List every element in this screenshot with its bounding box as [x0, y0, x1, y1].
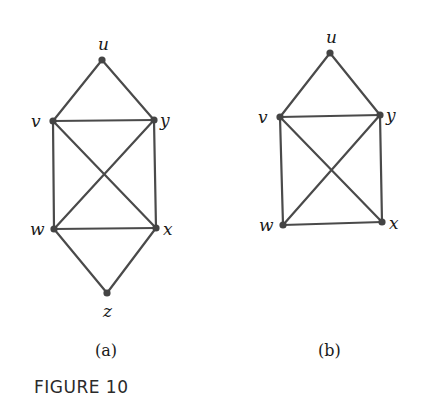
vertex-y [150, 116, 157, 123]
vertex-label-v: v [31, 111, 41, 131]
vertex-label-z: z [102, 301, 113, 321]
graph-b-label: (b) [318, 341, 341, 360]
vertex-label-w: w [30, 219, 45, 239]
vertex-label-u: u [326, 27, 337, 47]
edge-v-w [280, 117, 283, 225]
edge-u-y [102, 60, 154, 120]
figure-canvas: uvywxz uvywx (a) (b) [0, 0, 428, 416]
edge-v-y [53, 120, 154, 121]
vertex-label-x: x [389, 213, 399, 233]
vertex-x [378, 218, 385, 225]
edge-u-v [53, 60, 102, 121]
edge-y-w [283, 115, 380, 225]
edge-u-v [280, 53, 330, 117]
vertex-u [98, 56, 105, 63]
edge-y-x [154, 120, 156, 228]
vertex-u [326, 49, 333, 56]
graph-b: uvywx [258, 27, 399, 235]
vertex-x [152, 224, 159, 231]
vertex-label-w: w [259, 215, 274, 235]
vertex-w [50, 225, 57, 232]
edge-w-z [54, 229, 107, 293]
edge-w-x [54, 228, 156, 229]
vertex-label-x: x [163, 219, 173, 239]
graph-a: uvywxz [30, 34, 173, 321]
figure-caption: FIGURE 10 [34, 377, 129, 397]
edge-v-y [280, 115, 380, 117]
vertex-z [103, 289, 110, 296]
vertex-v [276, 113, 283, 120]
edge-y-x [380, 115, 382, 222]
vertex-label-v: v [258, 107, 268, 127]
vertex-y [376, 111, 383, 118]
vertex-label-y: y [385, 105, 396, 125]
vertex-v [49, 117, 56, 124]
vertex-w [279, 221, 286, 228]
edge-x-z [107, 228, 156, 293]
edge-v-w [53, 121, 54, 229]
vertex-label-y: y [159, 110, 170, 130]
edge-u-y [330, 53, 380, 115]
graph-a-label: (a) [95, 341, 117, 360]
edge-w-x [283, 222, 382, 225]
vertex-label-u: u [98, 34, 109, 54]
